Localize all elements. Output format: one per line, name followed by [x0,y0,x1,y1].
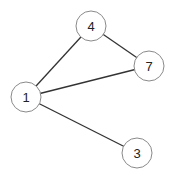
node-label: 3 [133,146,140,161]
node-1: 1 [11,82,41,112]
node-4: 4 [76,11,106,41]
node-label: 4 [87,19,94,34]
edges-layer [26,26,149,153]
node-label: 1 [22,90,29,105]
nodes-layer: 4713 [11,11,164,168]
node-7: 7 [134,51,164,81]
edge-1-7 [26,66,149,97]
node-label: 7 [145,59,152,74]
edge-1-3 [26,97,137,153]
node-3: 3 [122,138,152,168]
graph-diagram: 4713 [0,0,174,178]
